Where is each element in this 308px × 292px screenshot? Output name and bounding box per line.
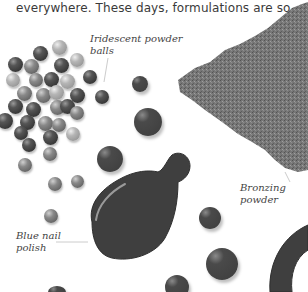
label-line: Bronzing: [240, 182, 286, 194]
label-line: polish: [16, 242, 61, 254]
label-line: balls: [90, 45, 183, 57]
label-line: powder: [240, 194, 286, 206]
label-line: Iridescent powder: [90, 33, 183, 45]
label-line: Blue nail: [16, 230, 61, 242]
label-iridescent-powder-balls: Iridescent powder balls: [90, 33, 183, 57]
label-bronzing-powder: Bronzing powder: [240, 182, 286, 206]
label-blue-nail-polish: Blue nail polish: [16, 230, 61, 254]
